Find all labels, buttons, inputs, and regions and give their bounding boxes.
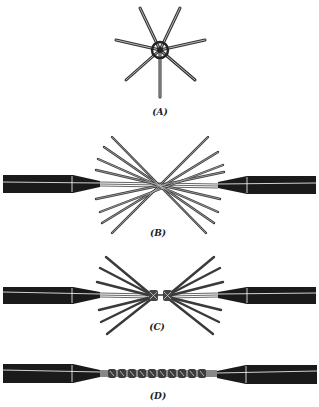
panel-d: (D) bbox=[3, 364, 317, 401]
center-core bbox=[157, 47, 163, 53]
panel-a: (A) bbox=[116, 8, 205, 117]
label-c: (C) bbox=[149, 322, 165, 332]
left-cable-b bbox=[3, 175, 100, 193]
twisted-splice-d bbox=[100, 369, 217, 378]
left-cable-c bbox=[3, 287, 100, 304]
twist-knots-c bbox=[149, 290, 172, 301]
right-cable-d bbox=[217, 365, 317, 384]
splice-diagram: (A) bbox=[0, 0, 319, 407]
label-a: (A) bbox=[152, 107, 168, 117]
right-cable-b bbox=[218, 176, 316, 194]
label-b: (B) bbox=[150, 228, 166, 238]
panel-c: (C) bbox=[3, 257, 316, 334]
left-cable-d bbox=[3, 364, 100, 383]
right-cable-c bbox=[218, 287, 316, 304]
label-d: (D) bbox=[150, 391, 166, 401]
panel-b: (B) bbox=[3, 137, 316, 238]
